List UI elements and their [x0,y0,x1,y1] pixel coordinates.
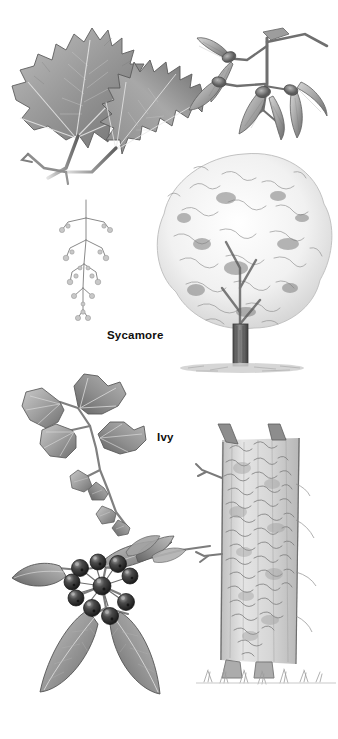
sycamore-whole-tree-figure [150,148,338,380]
botanical-plate: Sycamore [0,0,338,739]
sycamore-winged-seeds-figure [185,24,338,154]
samara-pair-4 [283,82,327,138]
sycamore-twig [22,136,116,184]
ivy-clad-trunk-figure [196,424,338,694]
samara-pair-2 [189,76,227,110]
label-sycamore: Sycamore [107,330,164,342]
samara-pair-3 [239,86,284,140]
ivy-berries-and-adult-leaves-figure [10,508,225,708]
sycamore-flower-panicle-figure [52,200,128,325]
tree-ground-shadow [180,363,304,373]
label-ivy: Ivy [157,432,174,444]
